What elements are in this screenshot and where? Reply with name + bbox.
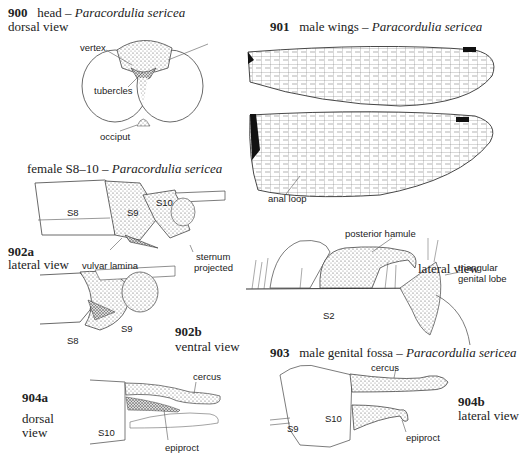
figure-903-number: 903 bbox=[270, 345, 290, 360]
label-epiproct-lateral: epiproct bbox=[406, 432, 440, 443]
label-s10: S10 bbox=[156, 197, 173, 208]
figure-904a-view-line2: view bbox=[22, 426, 47, 440]
figure-900-caption: 900 head – Paracordulia sericea bbox=[8, 6, 185, 20]
label-s9-lateral: S9 bbox=[287, 423, 299, 434]
figure-904a-number: 904a bbox=[22, 391, 48, 405]
figure-901-species: Paracordulia sericea bbox=[372, 19, 482, 34]
label-genital-lobe: genital lobe bbox=[458, 273, 507, 284]
label-tubercles: tubercles bbox=[94, 85, 133, 96]
label-triangular: triangular bbox=[458, 262, 498, 273]
label-s9: S9 bbox=[127, 207, 139, 218]
label-projected: projected bbox=[194, 262, 233, 273]
label-s9-ventral: S9 bbox=[121, 323, 133, 334]
label-s8-ventral: S8 bbox=[67, 335, 79, 346]
label-s10-dorsal: S10 bbox=[98, 427, 115, 438]
figure-902b-number: 902b bbox=[175, 325, 202, 339]
label-anal-loop: anal loop bbox=[268, 193, 307, 204]
figure-904b-view: lateral view bbox=[458, 409, 519, 423]
figure-902b-view: ventral view bbox=[175, 340, 240, 354]
figure-902-species: Paracordulia sericea bbox=[112, 161, 222, 176]
wings-drawing bbox=[248, 46, 494, 196]
label-s2: S2 bbox=[323, 310, 335, 321]
figure-903-caption: 903 male genital fossa – Paracordulia se… bbox=[270, 346, 516, 360]
label-posterior-hamule: posterior hamule bbox=[345, 228, 416, 239]
illustration-canvas bbox=[0, 0, 521, 462]
figure-904a-view-line1: dorsal bbox=[22, 412, 54, 426]
figure-902-caption: female S8–10 – Paracordulia sericea bbox=[27, 162, 222, 176]
figure-903-title: male genital fossa – bbox=[299, 345, 406, 360]
label-vulvar-lamina: vulvar lamina bbox=[82, 260, 138, 271]
label-cercus-dorsal: cercus bbox=[193, 371, 221, 382]
figure-901-title: male wings – bbox=[299, 19, 372, 34]
figure-900-title: head – bbox=[37, 5, 75, 20]
figure-900-number: 900 bbox=[8, 5, 28, 20]
figure-902-title: female S8–10 – bbox=[27, 161, 112, 176]
figure-904b-number: 904b bbox=[458, 395, 485, 409]
figure-900-view: dorsal view bbox=[8, 20, 68, 34]
label-occiput: occiput bbox=[100, 131, 130, 142]
female-segments-ventral-drawing bbox=[40, 266, 175, 330]
label-s10-lateral: S10 bbox=[325, 413, 342, 424]
genital-fossa-drawing bbox=[246, 238, 470, 345]
figure-903-species: Paracordulia sericea bbox=[406, 345, 516, 360]
figure-901-number: 901 bbox=[270, 19, 290, 34]
label-s8: S8 bbox=[67, 207, 79, 218]
label-epiproct-dorsal: epiproct bbox=[165, 442, 199, 453]
label-sternum: sternum bbox=[196, 251, 230, 262]
figure-902a-view: lateral view bbox=[8, 258, 69, 272]
label-cercus-lateral: cercus bbox=[371, 362, 399, 373]
figure-900-species: Paracordulia sericea bbox=[75, 5, 185, 20]
figure-901-caption: 901 male wings – Paracordulia sericea bbox=[270, 20, 482, 34]
label-vertex: vertex bbox=[80, 42, 106, 53]
